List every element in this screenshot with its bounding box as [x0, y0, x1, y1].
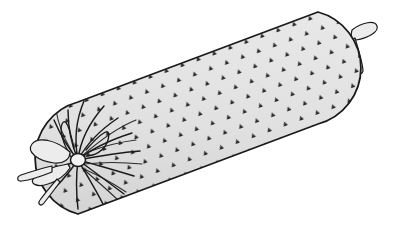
illustration-canvas: Bolster Pillow Line Drawing cylindrical … [0, 0, 398, 228]
bolster-pillow-drawing [0, 0, 398, 228]
rosette-knot [71, 154, 86, 167]
